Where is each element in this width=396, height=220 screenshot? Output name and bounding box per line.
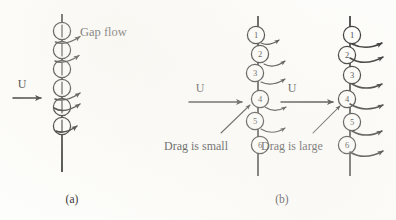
gap-flow-arrow — [261, 79, 285, 84]
drag-large-pointer — [313, 106, 340, 133]
caption-b: (b) — [275, 193, 289, 206]
figure-root: Gap flow U (a) 1 2 3 4 5 — [0, 0, 396, 220]
inflow-label-a: U — [18, 77, 27, 91]
particle-number: 1 — [254, 30, 258, 40]
inflow-label-b-right: U — [288, 81, 297, 95]
gap-flow-arrow — [264, 61, 285, 66]
gap-flow-arrow — [350, 151, 383, 156]
particle-number: 5 — [253, 116, 257, 126]
gap-flow-arrow — [261, 128, 285, 132]
gap-flow-arrow — [261, 40, 279, 44]
gap-flow-arrow — [352, 43, 382, 47]
particle-number: 6 — [345, 140, 349, 150]
particle-number: 5 — [350, 117, 354, 127]
drag-small-label: Drag is small — [164, 139, 229, 153]
caption-a: (a) — [66, 193, 79, 206]
figure-canvas: Gap flow U (a) 1 2 3 4 5 — [0, 0, 396, 220]
drag-small-pointer — [221, 105, 250, 133]
gap-flow-arrow — [265, 107, 286, 110]
gap-flow-arrow — [350, 104, 383, 109]
particle-number: 2 — [258, 49, 262, 59]
particle-number: 2 — [345, 50, 349, 60]
particle-number: 3 — [350, 70, 354, 80]
panel-a: Gap flow U (a) — [13, 14, 127, 206]
gap-flow-arrow — [352, 84, 382, 88]
chain-b-right: 1 2 3 4 5 6 U Drag is large — [261, 16, 383, 206]
particle-number: 1 — [350, 30, 354, 40]
gap-flow-label: Gap flow — [80, 25, 127, 39]
drag-large-label: Drag is large — [261, 139, 323, 153]
inflow-label-b-left: U — [196, 81, 205, 95]
particle-number: 3 — [253, 68, 257, 78]
gap-flow-arrow — [352, 131, 382, 135]
